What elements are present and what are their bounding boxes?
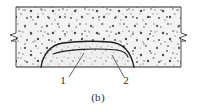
figure-container: 1 2 (b) <box>0 0 197 109</box>
figure-caption: (b) <box>91 91 105 104</box>
callout-label-2: 2 <box>123 74 129 86</box>
cross-section-figure: 1 2 (b) <box>0 0 197 109</box>
callout-label-1: 1 <box>60 74 66 86</box>
